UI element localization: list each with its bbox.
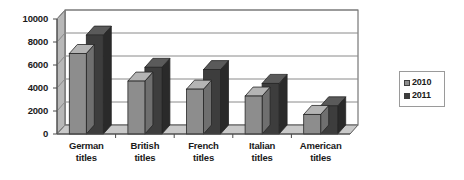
x-axis-tick-label-line: Italian [232, 140, 292, 152]
x-axis-tick-label-line: titles [174, 152, 234, 164]
x-axis-tick-label: Germantitles [56, 140, 116, 164]
x-axis-tick-label-line: titles [115, 152, 175, 164]
y-axis-tick-label: 6000 [4, 60, 48, 70]
y-axis-tick-label: 0 [4, 129, 48, 139]
bar-chart: 0200040006000800010000 GermantitlesBriti… [0, 0, 464, 180]
x-axis-tick-label-line: titles [232, 152, 292, 164]
y-axis-tick-label: 10000 [4, 14, 48, 24]
x-axis-tick-label-line: French [174, 140, 234, 152]
x-axis-tick-label-line: British [115, 140, 175, 152]
legend-swatch-2011 [404, 93, 410, 99]
y-axis-tick-label: 8000 [4, 37, 48, 47]
chart-legend: 2010 2011 [399, 71, 445, 107]
y-axis-tick-label: 2000 [4, 106, 48, 116]
x-axis-tick-label-line: German [56, 140, 116, 152]
legend-label-2010: 2010 [412, 78, 431, 87]
legend-label-2011: 2011 [412, 91, 431, 100]
y-axis: 0200040006000800010000 [0, 0, 48, 180]
x-axis-tick-label: Italiantitles [232, 140, 292, 164]
x-axis-tick-label: Frenchtitles [174, 140, 234, 164]
x-axis-tick-label: Americantitles [291, 140, 351, 164]
x-axis-tick-label-line: titles [56, 152, 116, 164]
legend-item: 2010 [404, 76, 441, 89]
x-axis-tick-label-line: American [291, 140, 351, 152]
x-axis-tick-label: Britishtitles [115, 140, 175, 164]
legend-item: 2011 [404, 89, 441, 102]
legend-swatch-2010 [404, 80, 410, 86]
x-axis-tick-label-line: titles [291, 152, 351, 164]
y-axis-tick-label: 4000 [4, 83, 48, 93]
